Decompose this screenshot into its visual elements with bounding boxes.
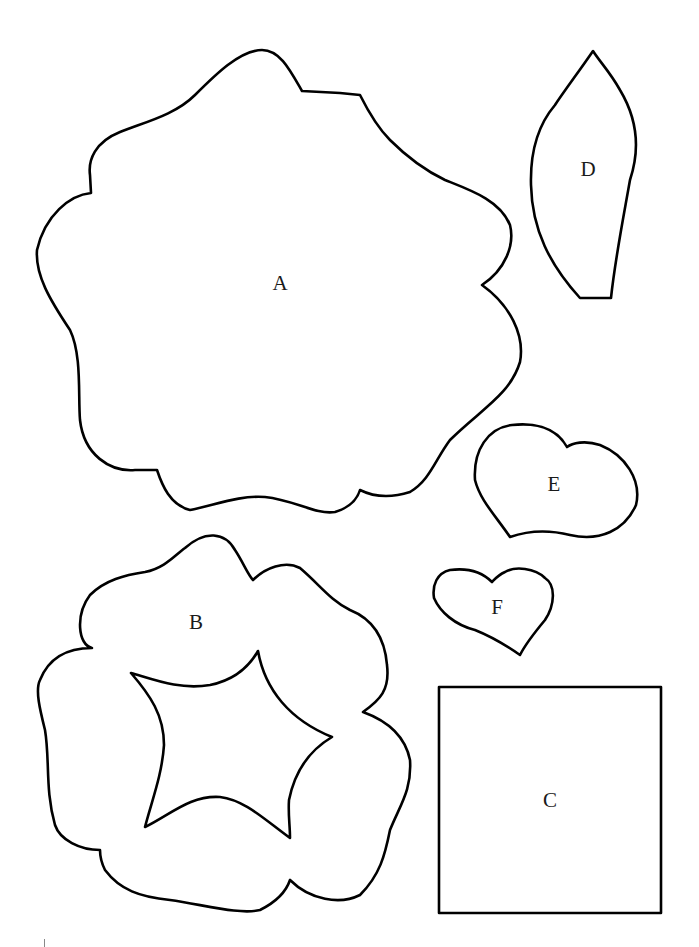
template-sheet (0, 0, 699, 947)
piece-c-label: C (543, 790, 557, 811)
piece-e-label: E (548, 474, 561, 495)
registration-mark (44, 939, 45, 947)
piece-a-label: A (272, 273, 287, 294)
piece-d-label: D (580, 159, 595, 180)
piece-b-label: B (189, 612, 203, 633)
piece-f-label: F (491, 597, 503, 618)
